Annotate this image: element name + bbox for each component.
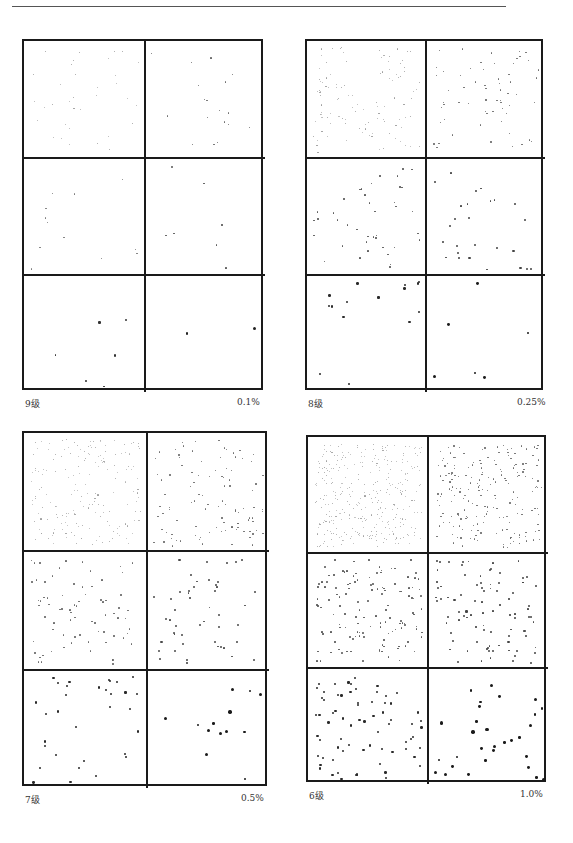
stipple-dot: [405, 519, 406, 520]
stipple-dot: [392, 531, 393, 532]
stipple-dot: [327, 117, 328, 118]
stipple-dot: [502, 108, 503, 109]
stipple-dot: [349, 515, 350, 516]
stipple-dot: [379, 518, 380, 519]
stipple-dot: [52, 677, 54, 679]
stipple-dot: [51, 651, 52, 652]
stipple-dot: [393, 533, 394, 534]
stipple-dot: [63, 237, 64, 238]
stipple-dot: [418, 578, 420, 580]
stipple-dot: [376, 235, 378, 237]
stipple-dot: [405, 145, 406, 146]
stipple-cell: [145, 158, 266, 275]
stipple-dot: [447, 597, 449, 599]
stipple-dot: [96, 540, 97, 541]
stipple-dot: [370, 584, 372, 586]
stipple-dot: [362, 466, 363, 467]
stipple-dot: [389, 266, 391, 268]
stipple-dot: [499, 572, 501, 574]
stipple-dot: [402, 60, 403, 61]
stipple-dot: [101, 258, 102, 259]
stipple-dot: [68, 513, 69, 514]
stipple-dot: [407, 641, 409, 643]
stipple-dot: [131, 469, 132, 470]
stipple-dot: [519, 56, 520, 57]
stipple-dot: [482, 612, 484, 614]
stipple-dot: [483, 522, 484, 523]
stipple-dot: [528, 60, 529, 61]
stipple-dot: [68, 477, 69, 478]
stipple-dot: [52, 535, 53, 536]
stipple-dot: [319, 546, 320, 547]
stipple-dot: [464, 509, 465, 510]
stipple-dot: [411, 500, 412, 501]
stipple-dot: [441, 493, 442, 494]
stipple-dot: [470, 538, 471, 539]
stipple-dot: [133, 466, 134, 467]
stipple-dot: [410, 51, 411, 52]
stipple-dot: [480, 463, 481, 464]
stipple-dot: [353, 543, 354, 544]
stipple-dot: [125, 482, 126, 483]
stipple-dot: [471, 730, 474, 733]
stipple-dot: [317, 598, 319, 600]
stipple-dot: [324, 261, 326, 263]
stipple-dot: [244, 778, 247, 781]
stipple-dot: [349, 691, 352, 694]
stipple-dot: [496, 590, 498, 592]
stipple-dot: [339, 627, 341, 629]
stipple-dot: [80, 501, 81, 502]
stipple-dot: [532, 478, 533, 479]
stipple-dot: [235, 561, 237, 563]
stipple-dot: [452, 134, 453, 135]
stipple-dot: [319, 739, 321, 741]
stipple-dot: [518, 736, 521, 739]
stipple-cell: [147, 551, 270, 669]
stipple-dot: [44, 107, 45, 108]
stipple-dot: [463, 453, 464, 454]
stipple-dot: [533, 539, 534, 540]
stipple-dot: [483, 629, 485, 631]
stipple-dot: [326, 495, 327, 496]
stipple-dot: [69, 128, 70, 129]
stipple-dot: [315, 502, 316, 503]
stipple-dot: [328, 294, 331, 297]
stipple-dot: [116, 83, 117, 84]
stipple-dot: [486, 513, 487, 514]
stipple-dot: [97, 494, 98, 495]
stipple-dot: [153, 596, 155, 598]
stipple-dot: [451, 479, 452, 480]
stipple-dot: [226, 449, 227, 450]
stipple-dot: [329, 511, 330, 512]
stipple-dot: [233, 452, 234, 453]
stipple-dot: [349, 504, 350, 505]
stipple-dot: [119, 526, 120, 527]
stipple-dot: [370, 535, 371, 536]
stipple-dot: [78, 601, 79, 602]
stipple-dot: [376, 524, 377, 525]
stipple-dot: [459, 525, 460, 526]
stipple-dot: [470, 689, 473, 692]
stipple-dot: [389, 534, 390, 535]
stipple-dot: [66, 685, 68, 687]
stipple-dot: [460, 537, 461, 538]
stipple-dot: [440, 516, 441, 517]
stipple-dot: [215, 470, 216, 471]
level-label: 7级: [25, 793, 40, 806]
stipple-dot: [516, 94, 517, 95]
stipple-dot: [510, 458, 511, 459]
stipple-dot: [349, 487, 350, 488]
stipple-dot: [160, 641, 162, 643]
stipple-dot: [389, 617, 391, 619]
stipple-dot: [79, 473, 80, 474]
stipple-dot: [390, 719, 392, 721]
stipple-dot: [526, 540, 527, 541]
stipple-dot: [401, 493, 402, 494]
stipple-dot: [373, 490, 374, 491]
stipple-dot: [223, 522, 224, 523]
stipple-dot: [372, 133, 373, 134]
stipple-dot: [69, 781, 71, 783]
stipple-dot: [75, 74, 76, 75]
stipple-dot: [339, 624, 340, 625]
stipple-dot: [365, 128, 366, 129]
